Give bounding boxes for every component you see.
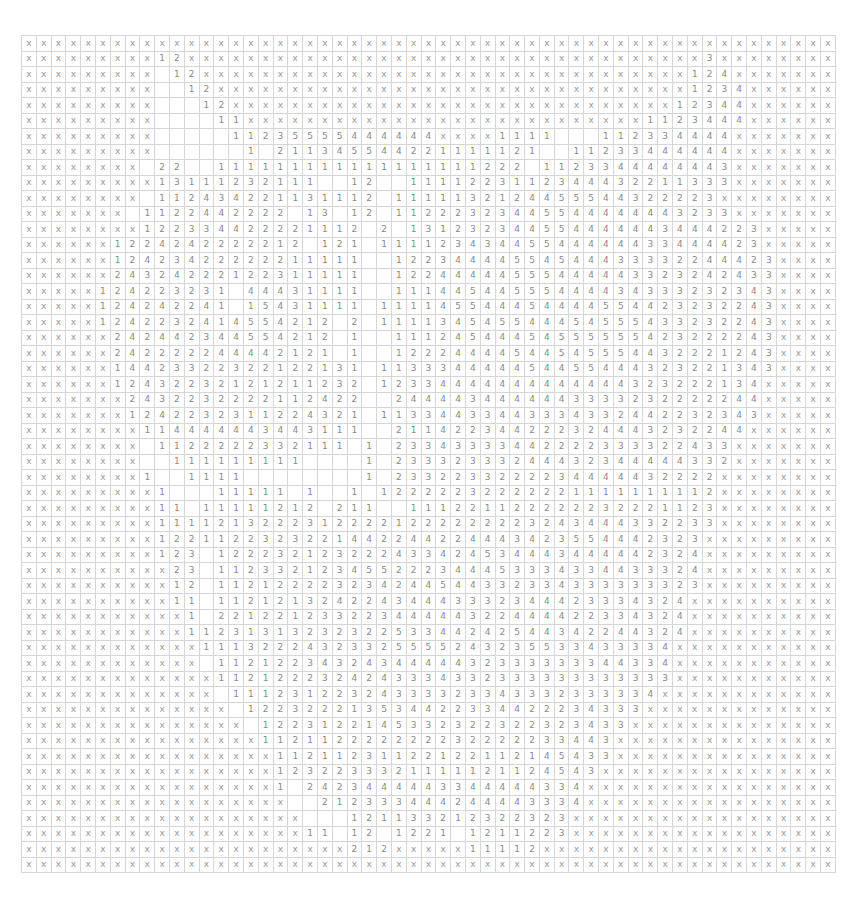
grid-cell: x — [614, 858, 629, 874]
grid-cell: 1 — [318, 191, 333, 207]
grid-cell: 1 — [303, 331, 318, 347]
grid-cell: 1 — [244, 486, 259, 502]
grid-cell: 1 — [392, 749, 407, 765]
grid-cell: 1 — [200, 501, 215, 517]
grid-cell: 2 — [259, 610, 274, 626]
grid-cell: x — [777, 641, 792, 657]
grid-cell: x — [703, 703, 718, 719]
grid-cell: x — [658, 67, 673, 83]
grid-cell: 4 — [569, 470, 584, 486]
grid-cell: x — [762, 393, 777, 409]
grid-cell — [303, 796, 318, 812]
grid-cell: x — [762, 796, 777, 812]
grid-cell — [185, 114, 200, 130]
grid-cell: x — [584, 52, 599, 68]
grid-cell: 3 — [407, 455, 422, 471]
grid-cell: x — [777, 253, 792, 269]
grid-cell: 2 — [200, 269, 215, 285]
grid-cell: 1 — [229, 269, 244, 285]
grid-cell: 5 — [496, 563, 511, 579]
grid-cell: x — [747, 610, 762, 626]
grid-cell: 2 — [525, 470, 540, 486]
grid-cell: 3 — [629, 579, 644, 595]
grid-cell: 4 — [703, 253, 718, 269]
grid-cell: x — [200, 718, 215, 734]
grid-cell: 4 — [496, 238, 511, 254]
grid-cell: x — [37, 765, 52, 781]
grid-cell: 5 — [525, 253, 540, 269]
grid-cell: 3 — [688, 455, 703, 471]
grid-cell: x — [762, 687, 777, 703]
grid-cell: x — [673, 672, 688, 688]
grid-cell: 2 — [688, 191, 703, 207]
grid-cell: x — [37, 83, 52, 99]
grid-cell: x — [96, 145, 111, 161]
grid-cell: x — [747, 517, 762, 533]
grid-cell: x — [747, 749, 762, 765]
grid-cell: 3 — [643, 439, 658, 455]
grid-cell: 5 — [451, 300, 466, 316]
grid-cell: 4 — [732, 393, 747, 409]
grid-cell: x — [703, 641, 718, 657]
grid-cell: x — [821, 610, 836, 626]
grid-cell: x — [52, 749, 67, 765]
grid-cell: x — [96, 222, 111, 238]
grid-cell: x — [288, 67, 303, 83]
grid-cell: x — [155, 765, 170, 781]
grid-cell: 3 — [540, 718, 555, 734]
grid-cell: x — [569, 67, 584, 83]
grid-cell: 5 — [466, 284, 481, 300]
grid-cell: 4 — [569, 377, 584, 393]
grid-cell: x — [66, 253, 81, 269]
grid-cell: 4 — [466, 780, 481, 796]
grid-cell: x — [584, 67, 599, 83]
grid-cell: x — [37, 300, 52, 316]
grid-cell: 3 — [584, 687, 599, 703]
grid-cell: 4 — [658, 160, 673, 176]
grid-cell: 2 — [540, 827, 555, 843]
grid-cell: x — [777, 238, 792, 254]
grid-cell: 3 — [407, 625, 422, 641]
grid-cell: 1 — [348, 300, 363, 316]
grid-cell: x — [673, 52, 688, 68]
grid-cell: x — [52, 284, 67, 300]
grid-cell: 2 — [673, 548, 688, 564]
grid-cell: x — [22, 579, 37, 595]
grid-cell: 2 — [274, 408, 289, 424]
grid-cell: x — [806, 610, 821, 626]
grid-cell: 2 — [525, 501, 540, 517]
grid-cell: 2 — [510, 579, 525, 595]
grid-cell: 3 — [555, 827, 570, 843]
grid-cell: 5 — [555, 222, 570, 238]
grid-cell — [303, 238, 318, 254]
grid-cell: x — [806, 114, 821, 130]
grid-cell: 3 — [436, 563, 451, 579]
grid-cell: x — [777, 517, 792, 533]
grid-cell — [244, 718, 259, 734]
grid-cell: 2 — [510, 749, 525, 765]
grid-cell: 4 — [599, 362, 614, 378]
grid-cell: x — [214, 52, 229, 68]
grid-cell: x — [22, 610, 37, 626]
grid-cell: 2 — [303, 703, 318, 719]
grid-cell: 3 — [584, 594, 599, 610]
grid-cell: 4 — [540, 610, 555, 626]
grid-cell: 2 — [496, 625, 511, 641]
grid-cell: 2 — [185, 300, 200, 316]
grid-cell: x — [37, 222, 52, 238]
grid-cell: 2 — [348, 579, 363, 595]
grid-cell: 4 — [377, 594, 392, 610]
grid-cell: x — [643, 811, 658, 827]
grid-cell: x — [52, 765, 67, 781]
grid-cell: 2 — [658, 625, 673, 641]
grid-cell: 2 — [274, 610, 289, 626]
grid-cell: 5 — [584, 532, 599, 548]
grid-cell — [377, 470, 392, 486]
grid-cell: x — [96, 687, 111, 703]
grid-cell: 3 — [540, 408, 555, 424]
grid-cell: x — [288, 98, 303, 114]
grid-cell: 3 — [170, 362, 185, 378]
grid-cell: 5 — [540, 238, 555, 254]
grid-cell: x — [392, 858, 407, 874]
grid-cell: 2 — [362, 191, 377, 207]
